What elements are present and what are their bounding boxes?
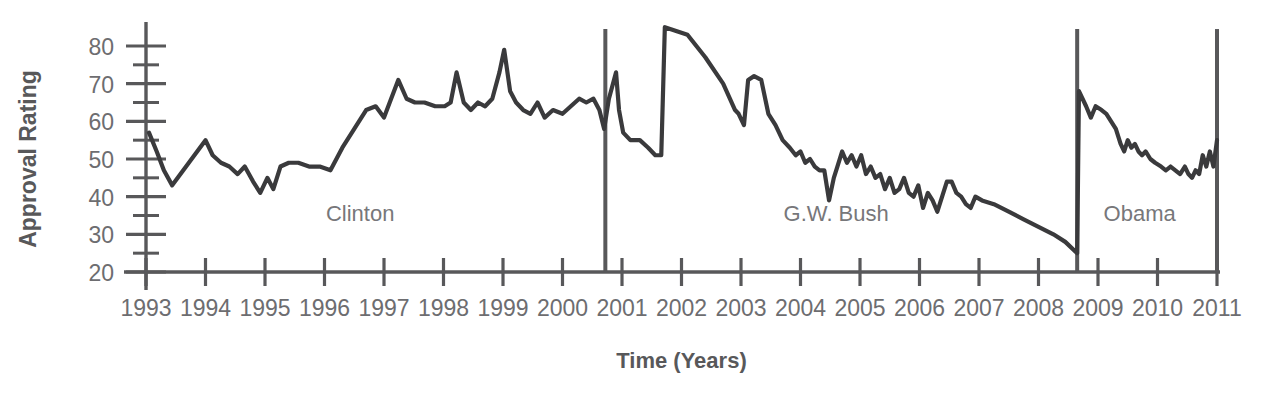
x-tick-label: 1993 — [120, 295, 171, 321]
x-tick-label: 1996 — [299, 295, 350, 321]
y-tick-label: 50 — [88, 147, 114, 173]
y-tick-label: 30 — [88, 222, 114, 248]
y-axis-title: Approval Rating — [15, 70, 41, 248]
x-tick-label: 2000 — [537, 295, 588, 321]
y-tick-label: 40 — [88, 185, 114, 211]
approval-rating-chart: 2030405060708019931994199519961997199819… — [0, 0, 1288, 404]
x-tick-label: 2009 — [1072, 295, 1123, 321]
y-tick-label: 60 — [88, 109, 114, 135]
x-tick-label: 1995 — [239, 295, 290, 321]
chart-canvas: 2030405060708019931994199519961997199819… — [0, 0, 1288, 404]
x-tick-label: 2007 — [953, 295, 1004, 321]
era-label-clinton: Clinton — [326, 201, 394, 226]
era-label-obama: Obama — [1104, 201, 1177, 226]
x-tick-label: 2008 — [1013, 295, 1064, 321]
y-tick-label: 70 — [88, 72, 114, 98]
y-tick-label: 80 — [88, 34, 114, 60]
x-tick-label: 2004 — [775, 295, 826, 321]
x-tick-label: 2011 — [1192, 295, 1241, 321]
y-tick-label: 20 — [88, 260, 114, 286]
x-axis-title: Time (Years) — [616, 348, 746, 373]
x-tick-label: 2002 — [656, 295, 707, 321]
x-tick-label: 2003 — [715, 295, 766, 321]
x-tick-label: 1999 — [477, 295, 528, 321]
x-tick-label: 2005 — [834, 295, 885, 321]
x-tick-label: 2010 — [1132, 295, 1183, 321]
x-tick-label: 2001 — [596, 295, 647, 321]
x-tick-label: 1997 — [358, 295, 409, 321]
era-label-g-w-bush: G.W. Bush — [784, 201, 889, 226]
x-tick-label: 1998 — [418, 295, 469, 321]
x-tick-label: 1994 — [180, 295, 231, 321]
x-tick-label: 2006 — [894, 295, 945, 321]
approval-data-line — [149, 27, 1217, 253]
